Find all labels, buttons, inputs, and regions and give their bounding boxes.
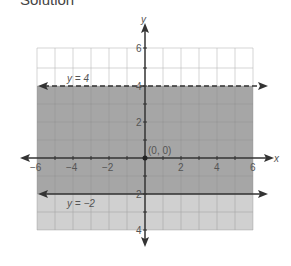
inequality-graph: (0, 0) y = 4 y = −2 x y −6 −4 −2 2 4 6 6… (0, 0, 291, 266)
origin-label: (0, 0) (148, 145, 171, 156)
x-tick-6: 6 (250, 162, 256, 173)
y-tick-6: 6 (136, 43, 142, 54)
line-top-label: y = 4 (66, 73, 89, 84)
y-tick-m4: 4 (136, 225, 142, 236)
origin-point (143, 156, 148, 161)
x-tick-m6: −6 (30, 162, 42, 173)
y-axis-label: y (140, 14, 147, 25)
x-axis-label: x (273, 153, 280, 164)
x-tick-m4: −4 (66, 162, 78, 173)
y-tick-4: 4 (136, 81, 142, 92)
x-tick-4: 4 (214, 162, 220, 173)
x-tick-m2: −2 (102, 162, 114, 173)
y-tick-m2: 2 (136, 189, 142, 200)
line-y-4-right-arrow-icon (258, 82, 268, 90)
y-tick-2: 2 (136, 117, 142, 128)
x-tick-2: 2 (178, 162, 184, 173)
line-bottom-label: y = −2 (66, 198, 95, 209)
